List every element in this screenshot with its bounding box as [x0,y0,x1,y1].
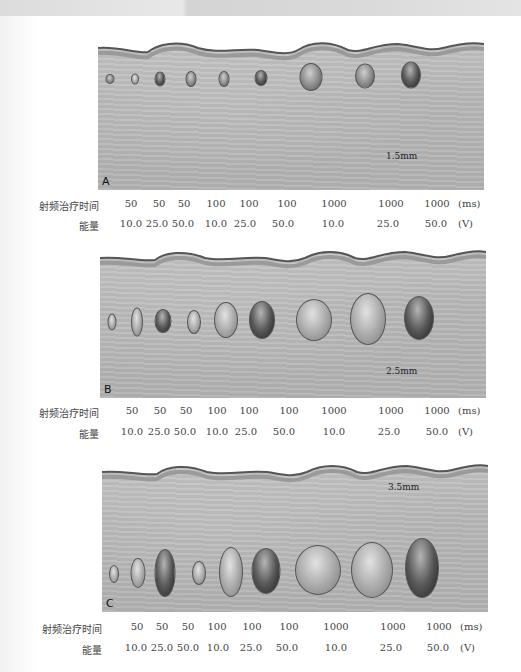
time-row-a: 射频治疗时间 50 50 50 100 100 100 1000 1000 10… [0,198,521,212]
lesion-c-4 [192,561,206,585]
panel-c-image: 3.5mm C [102,462,488,612]
lesion-c-2 [131,558,146,588]
time-row-label: 射频治疗时间 [39,198,99,213]
lesion-b-4 [187,310,201,334]
depth-label-b: 2.5mm [386,366,417,376]
depth-label-c: 3.5mm [388,482,419,492]
panel-label-a: A [102,175,110,188]
energy-row-c: 能量 10.0 25.0 50.0 10.0 25.0 50.0 10.0 25… [0,642,521,656]
lesion-a-7 [300,63,323,91]
lesion-a-3 [155,72,166,87]
energy-row-a: 能量 10.0 25.0 50.0 10.0 25.0 50.0 10.0 25… [0,218,521,232]
lesion-a-5 [219,71,230,87]
lesion-a-4 [186,71,197,87]
lesion-b-5 [214,302,238,338]
epidermis-layer [98,40,484,70]
time-row-b: 射频治疗时间 50 50 50 100 100 100 1000 1000 10… [0,405,521,419]
lesion-a-9 [401,62,421,89]
time-unit: (ms) [458,198,480,209]
lesion-c-1 [109,565,119,583]
panel-label-c: C [106,597,114,610]
lesion-c-3 [155,549,176,597]
page-top-band [0,0,521,16]
lesion-c-7 [295,545,341,595]
depth-label-a: 1.5mm [386,151,417,161]
lesion-b-2 [131,308,143,337]
time-row-c: 射频治疗时间 50 50 50 100 100 100 1000 1000 10… [0,621,521,635]
energy-row-label: 能量 [79,218,99,233]
lesion-b-9 [404,296,434,340]
energy-unit: (V) [458,218,473,229]
lesion-b-1 [108,314,117,331]
lesion-b-3 [155,309,172,333]
lesion-c-9 [405,538,439,598]
lesion-a-1 [106,74,115,84]
epidermis-layer [102,462,488,492]
panel-label-b: B [104,383,112,396]
epidermis-layer [100,248,486,278]
lesion-c-5 [219,547,243,597]
lesion-a-2 [131,74,139,85]
lesion-a-6 [255,70,268,86]
lesion-c-8 [351,542,393,598]
lesion-b-7 [296,299,332,341]
page-left-shade [0,16,40,672]
lesion-c-6 [252,548,281,594]
lesion-a-8 [355,64,375,89]
lesion-b-8 [350,293,386,345]
panel-b-image: 2.5mm B [100,248,486,398]
lesion-b-6 [249,301,275,339]
energy-row-b: 能量 10.0 25.0 50.0 10.0 25.0 50.0 10.0 25… [0,426,521,440]
panel-a-image: 1.5mm A [98,40,484,190]
